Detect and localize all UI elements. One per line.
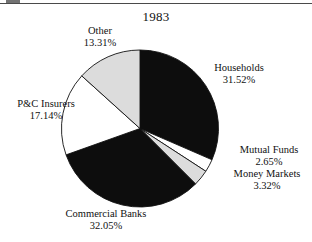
pie-label-pc-insurers-value: 17.14% [4, 110, 88, 122]
pie-label-mutual-funds: Mutual Funds 2.65% [228, 144, 310, 167]
pie-label-money-markets-name: Money Markets [224, 168, 310, 180]
pie-label-money-markets: Money Markets 3.32% [224, 168, 310, 191]
pie-label-commercial-banks: Commercial Banks 32.05% [50, 208, 162, 231]
pie-label-other-name: Other [62, 25, 138, 37]
pie-label-commercial-banks-name: Commercial Banks [50, 208, 162, 220]
pie-label-other: Other 13.31% [62, 25, 138, 48]
pie-label-households-value: 31.52% [196, 74, 282, 86]
pie-label-commercial-banks-value: 32.05% [50, 220, 162, 232]
pie-label-mutual-funds-value: 2.65% [228, 156, 310, 168]
pie-slice-group [61, 50, 218, 207]
pie-label-money-markets-value: 3.32% [224, 180, 310, 192]
pie-label-mutual-funds-name: Mutual Funds [228, 144, 310, 156]
pie-label-pc-insurers-name: P&C Insurers [4, 98, 88, 110]
figure-container: 1983 Other 13.31% Households 31.52% Mutu… [0, 0, 312, 242]
pie-chart [0, 0, 312, 242]
pie-label-households-name: Households [196, 62, 282, 74]
pie-label-pc-insurers: P&C Insurers 17.14% [4, 98, 88, 121]
pie-label-other-value: 13.31% [62, 37, 138, 49]
pie-label-households: Households 31.52% [196, 62, 282, 85]
